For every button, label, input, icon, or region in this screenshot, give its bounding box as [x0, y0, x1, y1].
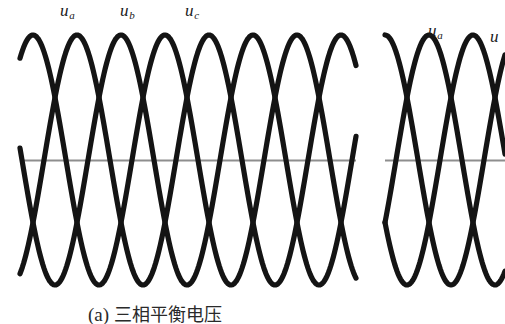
waveform-plot-b	[370, 0, 505, 324]
waveform-plot-a	[0, 0, 368, 324]
caption-panel-a: (a)三相平衡电压	[88, 305, 222, 324]
phase-label-ua-panel-b: ua	[428, 22, 443, 41]
caption-text-a: 三相平衡电压	[114, 304, 222, 324]
phase-label-ub-panel-b: u	[490, 28, 499, 45]
panel-a-three-phase-balanced-voltage: ua ub uc (a)三相平衡电压	[0, 0, 368, 324]
panel-b-three-phase-voltage: ua u (b)	[370, 0, 505, 324]
figure-root: ua ub uc (a)三相平衡电压 ua u (b)	[0, 0, 505, 324]
phase-label-ua-panel-a: ua	[60, 2, 75, 21]
phase-label-uc-panel-a: uc	[185, 2, 199, 21]
caption-index-a: (a)	[88, 304, 109, 324]
phase-label-ub-panel-a: ub	[120, 2, 135, 21]
